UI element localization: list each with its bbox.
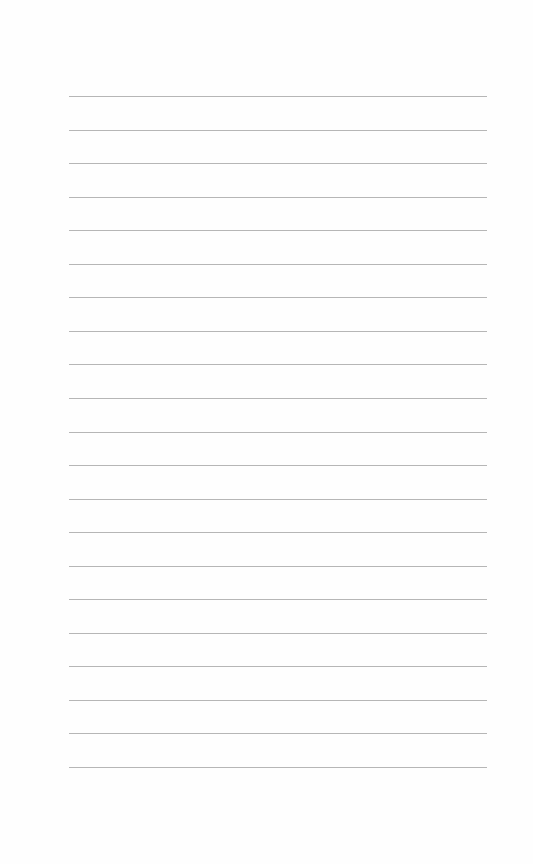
ruled-line: [69, 96, 487, 97]
ruled-line: [69, 364, 487, 365]
ruled-line: [69, 700, 487, 701]
ruled-line: [69, 197, 487, 198]
ruled-line: [69, 767, 487, 768]
ruled-line: [69, 566, 487, 567]
ruled-line: [69, 532, 487, 533]
ruled-line: [69, 297, 487, 298]
ruled-line: [69, 230, 487, 231]
ruled-line: [69, 633, 487, 634]
ruled-line: [69, 331, 487, 332]
ruled-line: [69, 499, 487, 500]
ruled-line: [69, 465, 487, 466]
ruled-line: [69, 130, 487, 131]
ruled-line: [69, 163, 487, 164]
lined-paper-page: [0, 0, 533, 864]
ruled-line: [69, 666, 487, 667]
ruled-line: [69, 398, 487, 399]
ruled-line: [69, 733, 487, 734]
ruled-line: [69, 264, 487, 265]
ruled-line: [69, 432, 487, 433]
ruled-line: [69, 599, 487, 600]
